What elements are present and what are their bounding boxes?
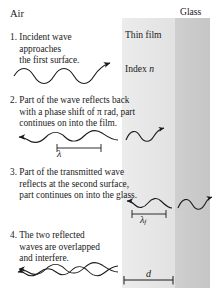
transmitted-wave-glass bbox=[178, 197, 212, 209]
wavelength-film-label: λf bbox=[140, 214, 146, 226]
lambda-subscript: f bbox=[144, 218, 146, 226]
overlapped-waves bbox=[18, 263, 118, 276]
reflected-wave-air bbox=[19, 131, 118, 143]
incident-wave-air bbox=[14, 63, 110, 84]
reflected-wave-film bbox=[127, 199, 172, 208]
thickness-label: d bbox=[146, 268, 151, 279]
thin-film-interference-figure: Air Thin film Index n Glass 1. Incident … bbox=[0, 0, 217, 296]
wave-diagram-svg bbox=[0, 0, 217, 296]
wavelength-air-label: λ bbox=[57, 148, 61, 159]
transmitted-wave-film-step2 bbox=[126, 128, 164, 141]
